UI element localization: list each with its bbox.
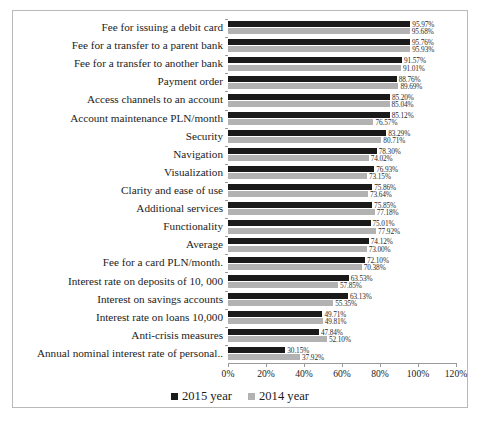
y-axis-tick: [225, 200, 228, 201]
bar-series-2015: 30.15%: [228, 347, 285, 353]
bar-value-label: 49.81%: [325, 317, 347, 326]
x-axis-tick-label: 120%: [445, 368, 467, 379]
chart-row: Annual nominal interest rate of personal…: [228, 345, 456, 363]
bar-value-label: 73.15%: [369, 172, 391, 181]
chart-container: Fee for issuing a debit card95.97%95.68%…: [12, 10, 468, 408]
chart-row: Fee for a card PLN/month.72.10%70.38%: [228, 254, 456, 272]
category-label: Anti-crisis measures: [131, 330, 223, 342]
bar-series-2015: 72.10%: [228, 257, 365, 263]
category-label: Fee for issuing a debit card: [102, 22, 223, 34]
legend-item[interactable]: 2014 year: [248, 389, 309, 404]
bar-series-2015: 75.86%: [228, 184, 372, 190]
bar-value-label: 95.68%: [412, 27, 434, 36]
y-axis-tick: [225, 236, 228, 237]
chart-row: Navigation78.30%74.02%: [228, 146, 456, 164]
x-axis-tick: [342, 363, 343, 367]
bar-series-2015: 63.13%: [228, 293, 348, 299]
chart-row: Access channels to an account85.20%85.04…: [228, 91, 456, 109]
bar-series-2015: 85.20%: [228, 94, 390, 100]
bar-series-2015: 78.30%: [228, 148, 377, 154]
chart-row: Clarity and ease of use75.86%73.64%: [228, 182, 456, 200]
chart-row: Functionality75.01%77.92%: [228, 218, 456, 236]
bar-series-2015: 74.12%: [228, 238, 369, 244]
y-axis-tick: [225, 55, 228, 56]
chart-row: Fee for a transfer to another bank91.57%…: [228, 55, 456, 73]
x-axis-tick: [380, 363, 381, 367]
bar-value-label: 73.64%: [370, 190, 392, 199]
category-label: Navigation: [173, 149, 223, 161]
bar-series-2015: 75.01%: [228, 220, 371, 226]
y-axis-tick: [225, 272, 228, 273]
x-axis-tick-label: 20%: [257, 368, 275, 379]
x-axis-tick: [304, 363, 305, 367]
bar-series-2014: 76.57%: [228, 119, 373, 125]
bar-series-2014: 77.92%: [228, 228, 376, 234]
bar-series-2015: 83.29%: [228, 130, 386, 136]
bar-value-label: 74.02%: [371, 154, 393, 163]
y-axis-tick: [225, 110, 228, 111]
y-axis-tick: [225, 218, 228, 219]
category-label: Security: [186, 131, 223, 143]
category-label: Clarity and ease of use: [121, 185, 223, 197]
bar-value-label: 95.93%: [412, 45, 434, 54]
category-label: Interest on savings accounts: [97, 294, 223, 306]
legend-swatch-icon: [171, 393, 178, 400]
bar-value-label: 73.00%: [369, 244, 391, 253]
legend-swatch-icon: [248, 393, 255, 400]
bar-series-2014: 95.93%: [228, 46, 410, 52]
category-label: Fee for a card PLN/month.: [103, 258, 223, 270]
bar-series-2015: 91.57%: [228, 57, 402, 63]
y-axis-tick: [225, 37, 228, 38]
legend-label: 2015 year: [182, 389, 232, 404]
y-axis-tick: [225, 309, 228, 310]
bar-value-label: 85.04%: [392, 99, 414, 108]
chart-row: Account maintenance PLN/month85.12%76.57…: [228, 110, 456, 128]
bar-series-2014: 49.81%: [228, 318, 323, 324]
chart-row: Anti-crisis measures47.84%52.10%: [228, 327, 456, 345]
bar-value-label: 76.57%: [375, 117, 397, 126]
legend-item[interactable]: 2015 year: [171, 389, 232, 404]
bar-series-2014: 73.15%: [228, 173, 367, 179]
y-axis-tick: [225, 254, 228, 255]
bar-value-label: 55.35%: [335, 298, 357, 307]
y-axis-tick: [225, 73, 228, 74]
chart-row: Interest rate on loans 10,00049.71%49.81…: [228, 309, 456, 327]
y-axis-tick: [225, 291, 228, 292]
plot-area: Fee for issuing a debit card95.97%95.68%…: [228, 19, 456, 363]
chart-row: Average74.12%73.00%: [228, 236, 456, 254]
category-label: Payment order: [157, 76, 223, 88]
category-label: Functionality: [163, 221, 223, 233]
category-label: Fee for a transfer to a parent bank: [72, 40, 223, 52]
category-label: Access channels to an account: [87, 95, 223, 107]
bar-value-label: 91.01%: [403, 63, 425, 72]
x-axis-tick-label: 100%: [407, 368, 429, 379]
bar-series-2015: 49.71%: [228, 311, 322, 317]
bar-series-2014: 74.02%: [228, 155, 369, 161]
category-label: Account maintenance PLN/month: [70, 113, 223, 125]
bar-series-2014: 89.69%: [228, 83, 398, 89]
category-label: Annual nominal interest rate of personal…: [37, 348, 223, 360]
chart-row: Interest rate on deposits of 10, 00063.5…: [228, 272, 456, 290]
chart-row: Visualization76.93%73.15%: [228, 164, 456, 182]
x-axis-tick-label: 60%: [333, 368, 351, 379]
bar-value-label: 57.85%: [340, 280, 362, 289]
bar-series-2014: 77.18%: [228, 209, 375, 215]
legend-label: 2014 year: [259, 389, 309, 404]
x-axis-tick: [228, 363, 229, 367]
chart-row: Interest on savings accounts63.13%55.35%: [228, 291, 456, 309]
bar-series-2014: 91.01%: [228, 65, 401, 71]
bar-series-2014: 57.85%: [228, 282, 338, 288]
bar-series-2015: 76.93%: [228, 166, 374, 172]
y-axis-tick: [225, 164, 228, 165]
bar-series-2014: 73.00%: [228, 246, 367, 252]
category-label: Average: [186, 239, 223, 251]
bar-series-2014: 80.71%: [228, 137, 381, 143]
x-axis-tick: [418, 363, 419, 367]
x-axis-tick: [266, 363, 267, 367]
chart-row: Fee for a transfer to a parent bank95.76…: [228, 37, 456, 55]
bar-series-2015: 75.85%: [228, 202, 372, 208]
bar-value-label: 37.92%: [302, 353, 324, 362]
chart-row: Additional services75.85%77.18%: [228, 200, 456, 218]
category-label: Interest rate on loans 10,000: [96, 312, 223, 324]
y-axis-tick: [225, 128, 228, 129]
